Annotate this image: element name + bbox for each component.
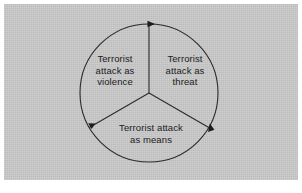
clockwise-arrow-top bbox=[148, 21, 156, 27]
segment-label-violence: Terrorist attack as violence bbox=[86, 53, 144, 88]
segment-label-threat-line-2: attack as bbox=[156, 65, 214, 77]
segment-label-means-line-2: as means bbox=[104, 134, 198, 146]
segment-label-violence-line-1: Terrorist bbox=[86, 53, 144, 65]
segment-label-threat-line-3: threat bbox=[156, 76, 214, 88]
cycle-diagram bbox=[0, 0, 302, 193]
segment-label-means-line-1: Terrorist attack bbox=[104, 122, 198, 134]
segment-label-violence-line-3: violence bbox=[86, 76, 144, 88]
segment-label-violence-line-2: attack as bbox=[86, 65, 144, 77]
figure-page: Terrorist attack as violence Terrorist a… bbox=[0, 0, 302, 193]
segment-label-threat-line-1: Terrorist bbox=[156, 53, 214, 65]
segment-label-threat: Terrorist attack as threat bbox=[156, 53, 214, 88]
segment-label-means: Terrorist attack as means bbox=[104, 122, 198, 145]
